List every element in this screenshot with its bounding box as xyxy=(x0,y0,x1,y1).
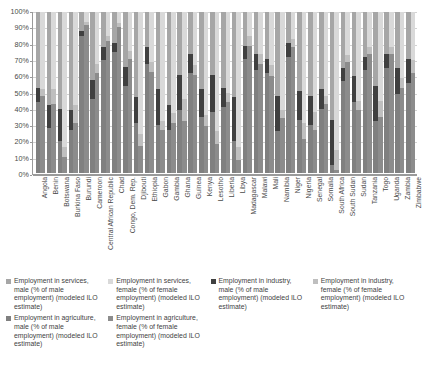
bar-female xyxy=(40,12,45,173)
bar-segment-services-female xyxy=(215,12,220,131)
legend-item-label: Employment in industry, male (% of male … xyxy=(219,277,308,311)
x-axis-label: Tanzania xyxy=(371,177,378,204)
bar-female xyxy=(302,12,307,173)
bar-segment-industry-female xyxy=(62,147,67,157)
x-axis-label: Madagascar xyxy=(250,177,257,214)
x-axis-label: Mali xyxy=(272,177,279,189)
bar-female xyxy=(356,12,361,173)
bar-segment-agriculture-female xyxy=(106,41,111,173)
y-axis-tick-label: 20% xyxy=(0,139,32,146)
x-axis-label: Congo, Dem. Rep. xyxy=(129,177,136,233)
bar-group xyxy=(362,12,373,173)
bar-group xyxy=(89,12,100,173)
y-axis-tick-mark xyxy=(30,45,33,46)
bar-segment-services-female xyxy=(411,12,416,60)
bar-group xyxy=(231,12,242,173)
bar-segment-industry-female xyxy=(204,115,209,126)
bar-female xyxy=(258,12,263,173)
bar-segment-industry-female xyxy=(302,123,307,139)
bar-segment-services-female xyxy=(302,12,307,123)
bar-group xyxy=(57,12,68,173)
bar-segment-industry-female xyxy=(73,105,78,123)
legend-item[interactable]: Employment in services, female (% of fem… xyxy=(108,277,210,311)
bar-segment-agriculture-female xyxy=(160,130,165,173)
bar-female xyxy=(334,12,339,173)
bar-segment-industry-female xyxy=(334,150,339,169)
bar-segment-services-female xyxy=(258,12,263,54)
bar-segment-industry-female xyxy=(291,39,296,47)
bar-segment-services-female xyxy=(378,12,383,101)
legend-item[interactable]: Employment in industry, female (% of fem… xyxy=(313,277,415,311)
bar-segment-agriculture-female xyxy=(40,96,45,173)
x-axis-label: Zambia xyxy=(404,177,411,200)
bar-group xyxy=(285,12,296,173)
bar-segment-agriculture-female xyxy=(226,102,231,173)
bar-female xyxy=(73,12,78,173)
bar-segment-industry-female xyxy=(400,78,405,88)
bar-segment-agriculture-female xyxy=(73,123,78,173)
bar-female xyxy=(345,12,350,173)
x-axis-label: Liberia xyxy=(228,177,235,197)
bar-segment-agriculture-female xyxy=(204,126,209,173)
y-axis-tick-mark xyxy=(30,12,33,13)
bar-segment-agriculture-female xyxy=(51,104,56,173)
legend-item-label: Employment in agriculture, female (% of … xyxy=(116,314,205,348)
bar-segment-services-female xyxy=(324,12,329,96)
bar-segment-services-female xyxy=(193,12,198,65)
x-axis-label: Sudan xyxy=(360,177,367,197)
bar-segment-industry-female xyxy=(324,96,329,104)
x-axis-label: Libya xyxy=(239,177,246,193)
bar-female xyxy=(171,12,176,173)
bar-segment-services-female xyxy=(269,12,274,65)
y-axis-tick-mark xyxy=(30,28,33,29)
bar-segment-services-female xyxy=(73,12,78,105)
bar-female xyxy=(138,12,143,173)
bar-segment-industry-female xyxy=(160,121,165,129)
bar-female xyxy=(51,12,56,173)
bar-segment-agriculture-female xyxy=(247,46,252,173)
legend-swatch-industry-female xyxy=(313,279,318,284)
bar-group xyxy=(296,12,307,173)
y-axis-tick-label: 100% xyxy=(0,8,32,15)
bar-segment-industry-female xyxy=(236,147,241,160)
legend-swatch-industry-male xyxy=(211,279,216,284)
bar-segment-services-female xyxy=(400,12,405,78)
bar-segment-agriculture-female xyxy=(280,118,285,173)
bar-female xyxy=(247,12,252,173)
legend-item[interactable]: Employment in agriculture, female (% of … xyxy=(108,314,210,348)
y-axis-tick-label: 40% xyxy=(0,106,32,113)
bar-group xyxy=(394,12,405,173)
bar-group xyxy=(209,12,220,173)
y-axis-tick-mark xyxy=(30,61,33,62)
bar-segment-industry-female xyxy=(356,101,361,111)
legend-item[interactable]: Employment in agriculture, male (% of ma… xyxy=(6,314,108,348)
bar-segment-services-female xyxy=(291,12,296,39)
bar-segment-services-female xyxy=(40,12,45,89)
x-axis-label: Niger xyxy=(294,177,301,193)
bar-segment-industry-female xyxy=(138,134,143,145)
x-axis-label: Central African Republic xyxy=(107,177,114,250)
x-axis-label: Namibia xyxy=(283,177,290,202)
bar-segment-agriculture-female xyxy=(236,160,241,173)
bar-female xyxy=(226,12,231,173)
bar-segment-services-female xyxy=(367,12,372,47)
bar-group xyxy=(307,12,318,173)
legend-item[interactable]: Employment in services, male (% of male … xyxy=(6,277,108,311)
bar-segment-agriculture-female xyxy=(291,47,296,173)
bar-group xyxy=(100,12,111,173)
legend-item[interactable]: Employment in industry, male (% of male … xyxy=(211,277,313,311)
bar-segment-services-female xyxy=(138,12,143,134)
bar-group xyxy=(111,12,122,173)
bar-segment-agriculture-female xyxy=(313,130,318,173)
bar-segment-services-female xyxy=(247,12,252,36)
bar-segment-agriculture-female xyxy=(128,59,133,173)
bar-segment-industry-female xyxy=(411,60,416,73)
bar-segment-agriculture-female xyxy=(149,72,154,173)
bar-segment-services-female xyxy=(128,12,133,51)
stacked-bar-chart: 100%90%80%70%60%50%40%30%20%10%0% xyxy=(32,12,417,175)
bar-group xyxy=(264,12,275,173)
legend-item-label: Employment in services, male (% of male … xyxy=(14,277,103,311)
bar-segment-agriculture-female xyxy=(117,27,122,174)
bar-segment-industry-female xyxy=(95,64,100,74)
bar-segment-services-female xyxy=(160,12,165,121)
